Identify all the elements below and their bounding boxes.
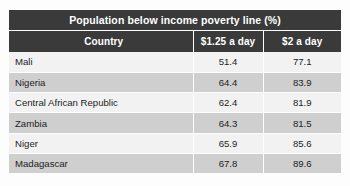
column-header-dollar-1-25-a-day: $1.25 a day xyxy=(193,31,263,53)
cell-dollar-1-25-a-day: 51.4 xyxy=(193,52,263,72)
cell-dollar-1-25-a-day: 64.3 xyxy=(193,113,263,133)
cell-dollar-1-25-a-day: 65.9 xyxy=(193,133,263,153)
cell-dollar-2-a-day: 77.1 xyxy=(263,52,341,72)
cell-country: Central African Republic xyxy=(9,93,193,113)
column-header-dollar-2-a-day: $2 a day xyxy=(263,31,341,53)
cell-country: Mali xyxy=(9,52,193,72)
page-root: Population below income poverty line (%)… xyxy=(0,0,350,186)
poverty-table: Population below income poverty line (%)… xyxy=(9,10,341,174)
table-row: Mali 51.4 77.1 xyxy=(9,52,341,72)
cell-country: Niger xyxy=(9,133,193,153)
cell-dollar-1-25-a-day: 62.4 xyxy=(193,93,263,113)
cell-country: Nigeria xyxy=(9,72,193,92)
cell-dollar-2-a-day: 83.9 xyxy=(263,72,341,92)
cell-dollar-2-a-day: 89.6 xyxy=(263,153,341,173)
cell-dollar-1-25-a-day: 64.4 xyxy=(193,72,263,92)
table-row: Central African Republic 62.4 81.9 xyxy=(9,93,341,113)
table-row: Nigeria 64.4 83.9 xyxy=(9,72,341,92)
cell-country: Zambia xyxy=(9,113,193,133)
table-body: Mali 51.4 77.1 Nigeria 64.4 83.9 Central… xyxy=(9,52,341,174)
table-row: Zambia 64.3 81.5 xyxy=(9,113,341,133)
poverty-table-container: Population below income poverty line (%)… xyxy=(9,10,341,174)
table-title-row: Population below income poverty line (%) xyxy=(9,10,341,31)
table-row: Madagascar 67.8 89.6 xyxy=(9,153,341,173)
cell-dollar-2-a-day: 81.9 xyxy=(263,93,341,113)
cell-dollar-2-a-day: 85.6 xyxy=(263,133,341,153)
cell-dollar-1-25-a-day: 67.8 xyxy=(193,153,263,173)
table-title: Population below income poverty line (%) xyxy=(9,10,341,31)
table-row: Niger 65.9 85.6 xyxy=(9,133,341,153)
table-column-header-row: Country $1.25 a day $2 a day xyxy=(9,31,341,53)
table-header: Population below income poverty line (%)… xyxy=(9,10,341,52)
column-header-country: Country xyxy=(9,31,193,53)
cell-country: Madagascar xyxy=(9,153,193,173)
cell-dollar-2-a-day: 81.5 xyxy=(263,113,341,133)
